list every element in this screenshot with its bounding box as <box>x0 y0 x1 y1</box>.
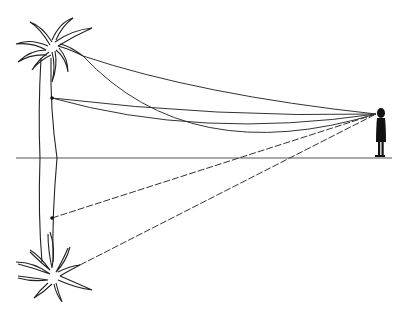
palm-tree-reflection <box>16 158 92 302</box>
sightline-top <box>80 114 376 265</box>
ray-top-deep <box>83 56 376 132</box>
palm-tree <box>16 18 92 158</box>
trunk-point-lower <box>50 216 54 220</box>
mirage-diagram: Mirage: palm tree and inverted image see… <box>0 0 404 319</box>
observer-figure <box>375 108 386 157</box>
ray-trunk-lower <box>52 98 376 124</box>
trunk-point-upper <box>50 96 54 100</box>
light-rays-solid <box>52 56 376 132</box>
light-rays-dashed <box>52 114 376 265</box>
sightline-trunk <box>52 114 376 218</box>
ray-trunk-upper <box>52 98 376 115</box>
